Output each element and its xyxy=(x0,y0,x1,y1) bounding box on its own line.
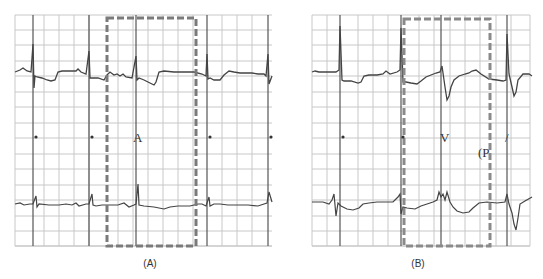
ecg-panel-b: V (P / xyxy=(311,14,533,250)
highlight-box-a xyxy=(107,18,196,246)
beat-marker xyxy=(208,135,211,138)
ecg-trace-bottom-b xyxy=(312,192,532,230)
ecg-strip-b: V (P / xyxy=(311,14,533,250)
caption-a: (A) xyxy=(130,258,170,269)
slash-label-b: / xyxy=(505,130,509,145)
caption-b: (B) xyxy=(398,258,438,269)
beat-marker xyxy=(341,135,344,138)
box-label-a: A xyxy=(133,130,143,145)
sync-lines-b xyxy=(340,15,507,246)
beat-marker xyxy=(90,135,93,138)
beat-marker xyxy=(401,135,404,138)
grid-b xyxy=(312,15,530,246)
ecg-trace-top-a xyxy=(15,44,272,88)
ecg-trace-bottom-a xyxy=(15,184,272,209)
beat-marker xyxy=(34,135,37,138)
ecg-panel-a: A xyxy=(14,14,274,250)
sync-lines-a xyxy=(33,15,268,246)
grid-a xyxy=(15,15,272,246)
secondary-label-b: (P xyxy=(478,145,490,160)
ecg-strip-a: A xyxy=(14,14,274,250)
ecg-trace-top-b xyxy=(312,26,532,100)
beat-marker xyxy=(269,135,272,138)
box-label-b: V xyxy=(440,130,450,145)
